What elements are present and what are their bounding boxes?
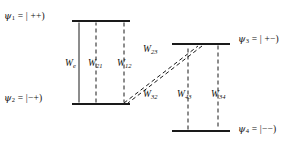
rate-label-w34: W34 <box>211 89 225 100</box>
rate-subscript: 32 <box>151 93 158 100</box>
rate-symbol: W <box>177 89 185 99</box>
right-transition-arrows <box>188 46 218 130</box>
psi-index: 2 <box>12 96 15 103</box>
psi-index: 1 <box>12 14 15 21</box>
rate-label-w21: W21 <box>88 58 102 69</box>
state-label-psi2: ψ2 = |−+) <box>4 92 42 103</box>
state-label-psi4: ψ4 = |−−) <box>238 123 276 134</box>
rate-symbol: W <box>143 44 151 54</box>
rate-label-w12: W12 <box>117 58 131 69</box>
rate-subscript: 21 <box>96 62 103 69</box>
rate-label-w43: W43 <box>177 89 191 100</box>
psi-index: 3 <box>246 37 249 44</box>
state-label-psi1: ψ1 = | ++) <box>4 10 45 21</box>
rate-symbol: W <box>211 89 219 99</box>
psi-symbol: ψ <box>238 33 246 44</box>
psi-symbol: ψ <box>4 10 12 21</box>
rate-label-w32: W32 <box>143 89 157 100</box>
rate-subscript: 43 <box>185 93 192 100</box>
psi-ket: = |−+) <box>18 93 43 103</box>
state-label-psi3: ψ3 = | +−) <box>238 33 279 44</box>
energy-level-diagram: ψ1 = | ++) ψ2 = |−+) ψ3 = | +−) ψ4 = |−−… <box>0 0 295 149</box>
psi-symbol: ψ <box>238 123 246 134</box>
rate-label-we: We <box>65 58 76 69</box>
rate-symbol: W <box>65 58 73 68</box>
rate-subscript: 12 <box>125 62 132 69</box>
rate-symbol: W <box>143 89 151 99</box>
rate-label-w23: W23 <box>143 44 157 55</box>
rate-subscript: 23 <box>151 48 158 55</box>
psi-symbol: ψ <box>4 92 12 103</box>
rate-symbol: W <box>88 58 96 68</box>
rate-symbol: W <box>117 58 125 68</box>
rate-subscript: 34 <box>219 93 226 100</box>
psi-ket: = | ++) <box>18 11 45 21</box>
psi-ket: = |−−) <box>252 124 277 134</box>
rate-subscript: e <box>73 62 76 69</box>
psi-ket: = | +−) <box>252 34 279 44</box>
psi-index: 4 <box>246 127 249 134</box>
